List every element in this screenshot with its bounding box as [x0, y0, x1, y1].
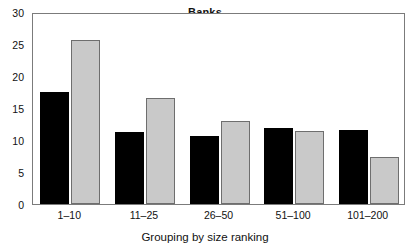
bar-dark: [40, 92, 69, 204]
bar-dark: [339, 130, 368, 204]
x-axis-title: Grouping by size ranking: [0, 231, 410, 243]
y-axis: 051015202530: [0, 0, 32, 251]
x-axis-tick-label: 1–10: [58, 209, 81, 221]
bar-dark: [264, 128, 293, 204]
bar-light: [71, 40, 100, 204]
bar-group: [264, 14, 324, 204]
bar-group: [190, 14, 250, 204]
y-axis-tick-label: 30: [12, 7, 24, 19]
x-axis-tick-label: 101–200: [347, 209, 388, 221]
bar-group: [40, 14, 100, 204]
bar-group: [115, 14, 175, 204]
bar-group: [339, 14, 399, 204]
x-axis-tick-label: 11–25: [130, 209, 158, 221]
x-axis-tick-label: 51–100: [276, 209, 311, 221]
bar-light: [370, 157, 399, 204]
y-axis-tick-label: 10: [12, 135, 24, 147]
bar-light: [146, 98, 175, 204]
x-axis-tick-label: 26–50: [204, 209, 233, 221]
bar-dark: [115, 132, 144, 204]
y-axis-tick-label: 5: [18, 167, 24, 179]
bar-dark: [190, 136, 219, 204]
y-axis-tick-label: 15: [12, 103, 24, 115]
plot-area: [32, 13, 405, 205]
y-axis-tick-label: 0: [18, 199, 24, 211]
bar-chart-figure: Banks 051015202530 1–1011–2526–5051–1001…: [0, 0, 410, 251]
y-axis-tick-label: 20: [12, 71, 24, 83]
y-axis-tick-label: 25: [12, 39, 24, 51]
bar-light: [295, 131, 324, 204]
bar-light: [221, 121, 250, 204]
